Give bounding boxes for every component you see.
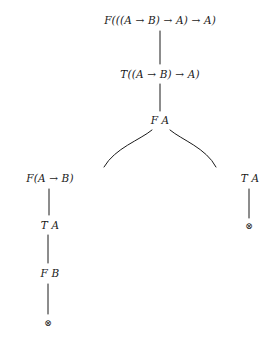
tableau-node-left-branch-formula-1: F(A → B) <box>26 173 73 184</box>
tableau-node-formula-3: F A <box>151 115 170 126</box>
tree-edge-branch-left <box>104 130 152 167</box>
tableau-proof-tree: F(((A → B) → A) → A) T((A → B) → A) F A … <box>0 0 276 348</box>
tableau-node-root-formula: F(((A → B) → A) → A) <box>104 15 216 26</box>
tableau-node-left-branch-formula-2: T A <box>41 220 59 231</box>
tableau-node-formula-2: T((A → B) → A) <box>120 69 199 80</box>
tableau-node-right-branch-formula-1: T A <box>241 173 259 184</box>
tableau-node-left-branch-formula-3: F B <box>41 268 60 279</box>
tree-edge-branch-right <box>170 130 216 167</box>
tableau-node-right-branch-closure-icon: ⊗ <box>245 222 253 231</box>
tableau-node-left-branch-closure-icon: ⊗ <box>44 319 52 328</box>
